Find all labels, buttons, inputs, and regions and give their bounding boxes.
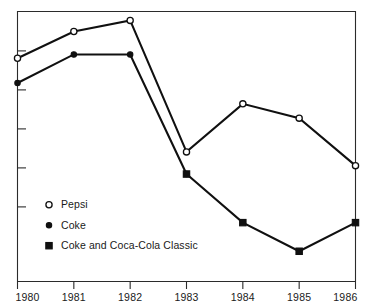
- x-tick-label-1985: 1985: [287, 291, 311, 303]
- legend-label-1: Coke: [61, 219, 86, 231]
- x-axis-tick-labels: 1980198119821983198419851986: [16, 291, 358, 303]
- x-tick-label-1981: 1981: [62, 291, 86, 303]
- legend-marker-1: [46, 223, 51, 228]
- series-lines-group: [18, 20, 356, 251]
- legend-label-0: Pepsi: [61, 198, 88, 210]
- series-line-1: [18, 54, 187, 174]
- data-point-1-1980: [15, 80, 20, 85]
- data-point-0-1982: [127, 17, 133, 23]
- data-point-2-1985: [296, 248, 302, 254]
- legend-label-2: Coke and Coca-Cola Classic: [61, 239, 198, 251]
- chart-container: 1980198119821983198419851986 PepsiCokeCo…: [0, 0, 377, 306]
- line-chart: 1980198119821983198419851986 PepsiCokeCo…: [0, 0, 377, 306]
- data-point-0-1980: [14, 55, 20, 61]
- data-point-2-1986: [352, 219, 358, 225]
- data-point-2-1984: [240, 219, 246, 225]
- x-axis-ticks: [18, 282, 356, 290]
- data-point-2-1983: [183, 171, 189, 177]
- series-line-2: [187, 174, 356, 251]
- x-tick-label-1986: 1986: [333, 291, 357, 303]
- data-point-1-1982: [127, 52, 132, 57]
- data-point-0-1983: [183, 149, 189, 155]
- x-tick-label-1982: 1982: [118, 291, 142, 303]
- chart-legend: PepsiCokeCoke and Coca-Cola Classic: [46, 198, 198, 251]
- data-point-1-1981: [71, 52, 76, 57]
- x-tick-label-1980: 1980: [16, 291, 40, 303]
- x-tick-label-1983: 1983: [174, 291, 198, 303]
- data-point-0-1985: [296, 115, 302, 121]
- legend-marker-0: [46, 202, 52, 208]
- data-point-0-1981: [71, 28, 77, 34]
- legend-marker-2: [46, 243, 52, 249]
- x-tick-label-1984: 1984: [231, 291, 255, 303]
- y-axis-ticks: [18, 51, 27, 207]
- series-line-0: [18, 20, 356, 165]
- data-point-0-1984: [240, 101, 246, 107]
- data-point-0-1986: [352, 163, 358, 169]
